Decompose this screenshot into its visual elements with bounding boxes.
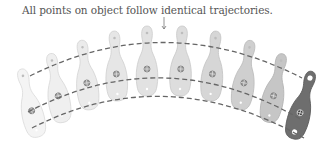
bowling-pin-icon (103, 30, 128, 101)
bowling-pin-icon (40, 52, 73, 125)
trajectory-top-point (30, 42, 302, 78)
bowling-pins-group (11, 26, 322, 142)
bowling-pin-icon (71, 39, 101, 111)
trajectory-diagram (0, 0, 331, 158)
bowling-pin-icon (282, 68, 322, 141)
bowling-pin-icon (199, 30, 227, 102)
bowling-pin-icon (257, 52, 293, 125)
bowling-pin-icon (169, 26, 193, 97)
bowling-pin-icon (229, 39, 261, 112)
bowling-pin-icon (136, 26, 158, 96)
trajectory-lines-group (28, 42, 304, 138)
bowling-pin-icon (11, 66, 49, 139)
annotation-arrow-icon (162, 17, 166, 29)
